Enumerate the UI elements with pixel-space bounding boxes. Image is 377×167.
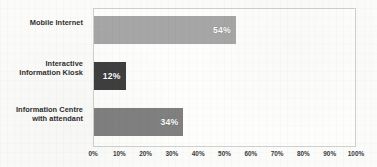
x-tick-70: 70% [271, 150, 284, 157]
horizontal-bar-chart: Mobile Internet Interactive Information … [0, 0, 377, 167]
x-tick-60: 60% [244, 150, 257, 157]
x-tick-80: 80% [297, 150, 310, 157]
x-tick-100: 100% [348, 150, 364, 157]
x-axis-tick-labels: 0% 10% 20% 30% 40% 50% 60% 70% 80% 90% 1… [93, 148, 356, 162]
x-tick-0: 0% [88, 150, 97, 157]
bar-value-information-centre-with-attendant: 34% [161, 117, 179, 127]
x-tick-40: 40% [192, 150, 205, 157]
category-label-information-centre-with-attendant: Information Centre with attendant [16, 105, 83, 124]
category-axis-labels: Mobile Internet Interactive Information … [0, 8, 88, 147]
category-label-mobile-internet: Mobile Internet [30, 18, 83, 27]
bar-value-interactive-information-kiosk: 12% [103, 71, 121, 81]
bar-interactive-information-kiosk: 12% [94, 62, 126, 90]
category-label-interactive-information-kiosk: Interactive Information Kiosk [19, 59, 83, 78]
plot-area: 54% 12% 34% [93, 8, 356, 147]
x-tick-30: 30% [165, 150, 178, 157]
bar-information-centre-with-attendant: 34% [94, 108, 183, 136]
x-tick-10: 10% [113, 150, 126, 157]
x-tick-50: 50% [218, 150, 231, 157]
bar-value-mobile-internet: 54% [213, 25, 231, 35]
bar-mobile-internet: 54% [94, 16, 236, 44]
x-tick-90: 90% [323, 150, 336, 157]
x-tick-20: 20% [139, 150, 152, 157]
